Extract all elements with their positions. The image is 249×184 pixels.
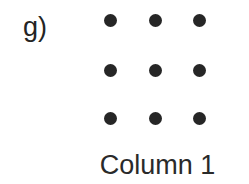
grid-dot [193, 64, 206, 77]
grid-dot [149, 14, 162, 27]
grid-dot [193, 14, 206, 27]
grid-dot [149, 64, 162, 77]
figure-panel: g) Column 1 [0, 0, 249, 184]
grid-dot [104, 64, 117, 77]
grid-dot [104, 14, 117, 27]
grid-dot [104, 112, 117, 125]
column-caption: Column 1 [0, 150, 249, 180]
grid-dot [193, 112, 206, 125]
dot-grid [0, 0, 249, 145]
grid-dot [149, 112, 162, 125]
